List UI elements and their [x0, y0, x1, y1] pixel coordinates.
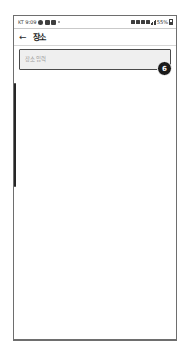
scrollbar-track[interactable]: [14, 74, 16, 341]
results-content-area: [14, 74, 176, 341]
scrollbar-thumb[interactable]: [14, 83, 16, 187]
status-bar-right: 55%: [131, 19, 173, 25]
status-bar-left: KT 9:09: [18, 19, 60, 25]
messaging-icon: [38, 20, 43, 25]
place-input-placeholder: 장소 입력: [25, 56, 46, 63]
place-search-input[interactable]: 장소 입력 6: [19, 49, 171, 70]
notification-dot-icon: [58, 21, 60, 23]
app-icon: [45, 20, 50, 25]
bluetooth-icon: [136, 20, 140, 25]
clock-label: 9:09: [25, 19, 36, 25]
page-title: 장소: [33, 33, 47, 42]
alarm-icon: [131, 20, 135, 25]
app-bar: ← 장소: [14, 29, 176, 46]
wifi-icon: [146, 20, 150, 25]
battery-percent-label: 55%: [157, 19, 168, 25]
sound-mute-icon: [141, 20, 145, 25]
back-arrow-icon[interactable]: ←: [19, 33, 27, 42]
battery-icon: [169, 19, 173, 25]
app-icon: [51, 20, 56, 25]
annotation-step-badge: 6: [157, 61, 172, 76]
status-bar: KT 9:09 55%: [14, 16, 176, 29]
place-input-section: 장소 입력 6: [14, 46, 176, 74]
carrier-label: KT: [18, 19, 24, 25]
signal-bars-icon: [151, 20, 156, 25]
phone-screen-frame: KT 9:09 55% ← 장소 장소 입력 6: [13, 15, 177, 341]
